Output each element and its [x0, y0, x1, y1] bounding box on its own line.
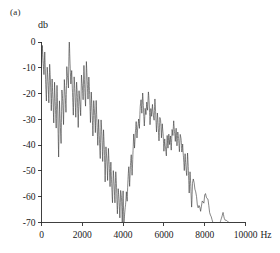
y-tick-marks: [38, 42, 41, 223]
y-tick-label: -60: [23, 192, 36, 202]
figure-panel: (a) db 0-10-20-30-40-50-60-70 0200040006…: [0, 0, 280, 253]
axes: [38, 42, 245, 226]
y-tick-label: -10: [23, 63, 36, 73]
y-tick-labels: 0-10-20-30-40-50-60-70: [23, 37, 36, 228]
spectrum-curve: [42, 42, 246, 223]
x-tick-marks: [42, 223, 246, 226]
y-tick-label: 0: [31, 37, 36, 47]
x-tick-label: 0: [39, 230, 44, 240]
y-tick-label: -50: [23, 166, 36, 176]
x-tick-label: 8000: [195, 230, 214, 240]
x-tick-label: 4000: [114, 230, 133, 240]
y-tick-label: -70: [23, 218, 36, 228]
x-tick-label: 10000: [234, 230, 258, 240]
axis-frame: [42, 42, 246, 223]
spectrum-plot: 0-10-20-30-40-50-60-70 02000400060008000…: [0, 0, 280, 253]
x-tick-label: 6000: [154, 230, 173, 240]
x-unit-label: Hz: [261, 230, 272, 240]
x-tick-label: 2000: [73, 230, 92, 240]
y-tick-label: -20: [23, 89, 36, 99]
y-tick-label: -30: [23, 115, 36, 125]
x-tick-labels: 0200040006000800010000: [39, 230, 258, 240]
y-tick-label: -40: [23, 140, 36, 150]
